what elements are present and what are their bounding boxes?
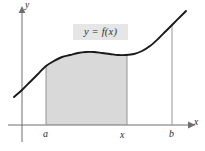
curve-label-text: y = f(x) [84,27,117,38]
y-axis-label: y [25,1,29,11]
tick-label-a: a [43,129,48,139]
label-leader-tail [107,39,119,53]
figure-container: y = f(x) y x a x b [0,0,205,151]
y-axis [19,6,26,142]
tick-label-b: b [169,129,174,139]
curve-label-box: y = f(x) [73,24,128,40]
shaded-area-region [46,52,127,125]
x-axis-label: x [194,118,198,128]
tick-label-x: x [120,130,124,140]
figure-graphic [0,0,205,151]
